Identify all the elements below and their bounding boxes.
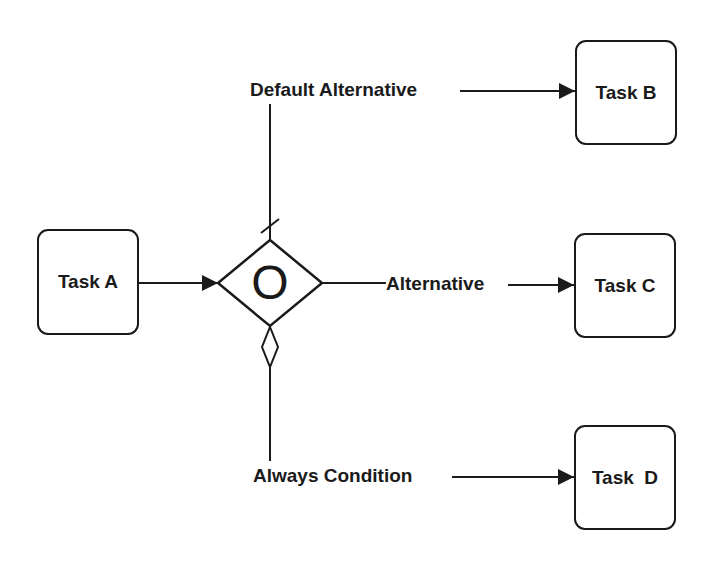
gateway-or-symbol: O [240,259,300,307]
flow-label-alternative: Alternative [386,273,484,295]
flow-always-condition-to-task-d [270,367,574,477]
flow-default-to-task-b [270,91,575,240]
flow-label-always-condition: Always Condition [253,465,412,487]
task-b-box[interactable]: Task B [575,40,677,145]
task-a-box[interactable]: Task A [37,229,139,335]
task-c-box[interactable]: Task C [574,233,676,338]
flow-label-default-alternative: Default Alternative [250,79,417,101]
conditional-diamond-icon [262,327,278,367]
process-diagram: O Task A Task B Task C Task D Default Al… [0,0,709,561]
task-d-box[interactable]: Task D [574,425,676,530]
